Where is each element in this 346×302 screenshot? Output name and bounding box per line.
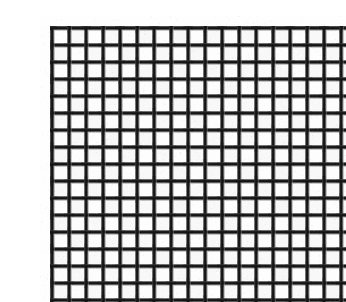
woven-mesh-canvas <box>40 16 346 302</box>
woven-mesh-figure: Woven wire mesh (plain weave) <box>40 16 346 302</box>
